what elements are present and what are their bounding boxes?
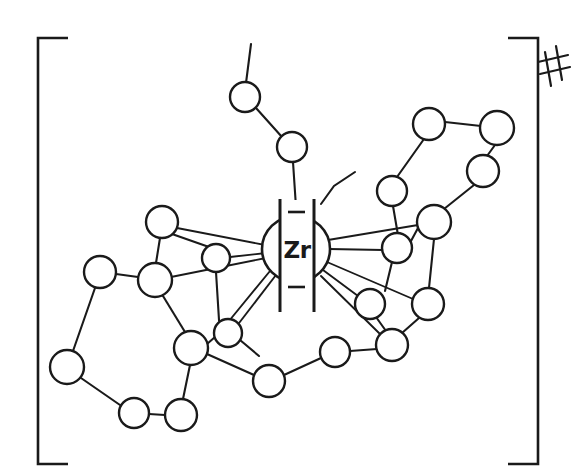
bond-a17-a18 [73, 288, 95, 351]
bond-a3-a4 [445, 122, 481, 126]
bond-core-a22-lower [236, 275, 276, 327]
atom-node-a16 [138, 263, 172, 297]
atom-node-a12 [320, 337, 350, 367]
atom-node-a9 [412, 288, 444, 320]
bond-a12-a13 [284, 358, 321, 375]
bond-a3-a6 [397, 139, 424, 177]
atom-node-a4 [480, 111, 514, 145]
right-bracket [508, 38, 538, 464]
bond-a14-a16 [156, 238, 160, 263]
bond-core-stub-upper-right [321, 172, 355, 204]
atom-node-a7 [417, 205, 451, 239]
bond-a1-a2 [256, 108, 282, 137]
bond-a20-a21 [183, 365, 190, 399]
atom-node-a10 [355, 289, 385, 319]
atom-node-a13 [253, 365, 285, 397]
atom-node-a1 [230, 82, 260, 112]
bond-a19-a20 [149, 414, 165, 415]
bond-a5-a7 [444, 185, 474, 209]
charge-annotation-icon [538, 46, 570, 86]
atom-node-a15 [202, 244, 230, 272]
atom-node-a14 [146, 206, 178, 238]
zr-center-label: Zr [283, 237, 311, 263]
bond-a10-a11 [376, 317, 386, 331]
bond-a11-a12 [350, 349, 377, 351]
atom-node-a18 [50, 350, 84, 384]
bond-core-a15 [230, 253, 266, 257]
atom-node-a2 [277, 132, 307, 162]
zr-core-group: Zr [262, 199, 330, 312]
atom-node-a6 [377, 176, 407, 206]
bond-free-a1 [246, 44, 251, 83]
chemical-structure-drawing: Zr [0, 0, 588, 475]
bond-core-a8 [329, 249, 383, 250]
bond-core-a22-upper [229, 271, 270, 321]
bond-a15-stub [216, 272, 219, 320]
bond-a16-a21 [163, 296, 185, 332]
atom-node-a22 [214, 319, 242, 347]
left-bracket [38, 38, 68, 464]
bond-a4-a5 [487, 145, 495, 156]
bond-core-a14 [177, 228, 265, 245]
bond-a16-a17 [116, 274, 138, 277]
bond-a22-stub [240, 340, 259, 356]
atom-node-a19 [119, 398, 149, 428]
bond-a21-a13 [207, 354, 254, 375]
atom-node-a20 [165, 399, 197, 431]
atom-node-a3 [413, 108, 445, 140]
atom-node-a8 [382, 233, 412, 263]
bond-a14-a15 [172, 234, 209, 247]
bond-a18-a19 [81, 378, 120, 405]
structure-figure-canvas: Zr [0, 0, 588, 475]
atom-node-a21 [174, 331, 208, 365]
bond-a9-a11 [402, 318, 419, 333]
atom-node-a5 [467, 155, 499, 187]
atom-node-a17 [84, 256, 116, 288]
atom-node-a11 [376, 329, 408, 361]
bond-a7-a8 [411, 228, 418, 241]
bond-a7-a9 [429, 239, 434, 288]
